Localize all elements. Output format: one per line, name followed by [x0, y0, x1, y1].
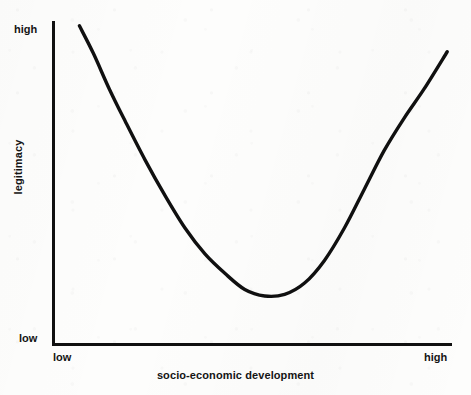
x-axis-title: socio-economic development	[0, 369, 471, 381]
chart-figure: high low low high socio-economic develop…	[0, 0, 471, 395]
y-axis-title: legitimacy	[12, 132, 24, 202]
y-axis-low-tick-label: low	[19, 333, 37, 344]
x-axis-high-tick-label: high	[424, 352, 447, 363]
x-axis-low-tick-label: low	[53, 352, 71, 363]
legitimacy-curve	[79, 26, 447, 297]
chart-plot-area	[0, 0, 471, 395]
y-axis-high-tick-label: high	[14, 24, 37, 35]
